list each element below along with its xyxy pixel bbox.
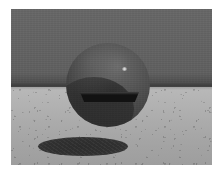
floating-sphere (66, 43, 150, 127)
dark-equatorial-slot (80, 92, 139, 102)
render-canvas (11, 9, 212, 165)
slot-upper-gloss (80, 92, 139, 95)
cast-shadow-grain (38, 137, 128, 156)
scene-root (0, 0, 220, 171)
sphere-grain-overlay (66, 43, 150, 127)
cast-shadow-ellipse (38, 137, 128, 156)
